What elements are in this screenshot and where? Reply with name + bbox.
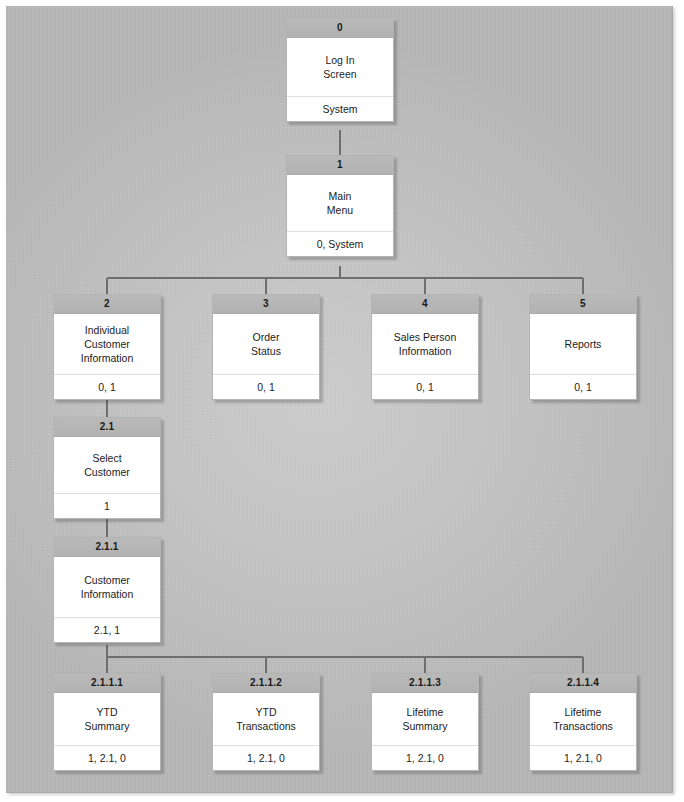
node-refs-5: 0, 1: [530, 374, 636, 399]
node-title-text: Reports: [565, 337, 602, 351]
node-4[interactable]: 4Sales PersonInformation0, 1: [371, 294, 479, 400]
node-refs-2.1: 1: [54, 493, 160, 518]
node-refs-2.1.1.2: 1, 2.1, 0: [213, 745, 319, 770]
structure-chart-page: 0Log InScreenSystem1MainMenu0, System2In…: [0, 0, 684, 802]
node-id-2.1.1: 2.1.1: [54, 538, 160, 557]
node-2.1.1.3[interactable]: 2.1.1.3LifetimeSummary1, 2.1, 0: [371, 673, 479, 771]
node-title-line: Transactions: [553, 719, 613, 733]
node-title-2.1: SelectCustomer: [54, 437, 160, 493]
node-title-2.1.1.4: LifetimeTransactions: [530, 693, 636, 745]
node-title-line: Menu: [327, 203, 353, 217]
node-id-3: 3: [213, 295, 319, 314]
node-id-0: 0: [287, 19, 393, 38]
node-title-2.1.1.2: YTDTransactions: [213, 693, 319, 745]
node-title-text: LifetimeTransactions: [553, 705, 613, 733]
node-title-line: YTD: [236, 705, 296, 719]
node-title-line: Sales Person: [394, 330, 456, 344]
node-2.1.1.1[interactable]: 2.1.1.1YTDSummary1, 2.1, 0: [53, 673, 161, 771]
node-title-text: SelectCustomer: [84, 451, 130, 479]
node-refs-2.1.1: 2.1, 1: [54, 617, 160, 642]
node-id-2.1.1.3: 2.1.1.3: [372, 674, 478, 693]
node-id-2.1.1.1: 2.1.1.1: [54, 674, 160, 693]
node-title-text: IndividualCustomerInformation: [81, 323, 134, 365]
node-refs-2.1.1.1: 1, 2.1, 0: [54, 745, 160, 770]
node-title-2.1.1: CustomerInformation: [54, 557, 160, 617]
node-title-1: MainMenu: [287, 175, 393, 231]
node-title-line: Individual: [81, 323, 134, 337]
node-title-5: Reports: [530, 314, 636, 374]
node-id-1: 1: [287, 156, 393, 175]
node-1[interactable]: 1MainMenu0, System: [286, 155, 394, 257]
node-title-text: YTDTransactions: [236, 705, 296, 733]
node-0[interactable]: 0Log InScreenSystem: [286, 18, 394, 122]
node-refs-2.1.1.3: 1, 2.1, 0: [372, 745, 478, 770]
node-title-2: IndividualCustomerInformation: [54, 314, 160, 374]
node-refs-0: System: [287, 96, 393, 121]
node-id-2.1: 2.1: [54, 418, 160, 437]
node-id-2.1.1.2: 2.1.1.2: [213, 674, 319, 693]
node-title-line: YTD: [85, 705, 130, 719]
node-title-line: Information: [81, 351, 134, 365]
node-title-2.1.1.1: YTDSummary: [54, 693, 160, 745]
node-refs-2: 0, 1: [54, 374, 160, 399]
node-title-text: OrderStatus: [251, 330, 281, 358]
node-refs-3: 0, 1: [213, 374, 319, 399]
node-title-line: Information: [394, 344, 456, 358]
node-title-line: Transactions: [236, 719, 296, 733]
node-title-line: Reports: [565, 337, 602, 351]
node-title-line: Status: [251, 344, 281, 358]
node-title-text: Log InScreen: [323, 53, 356, 81]
node-title-line: Select: [84, 451, 130, 465]
node-title-text: YTDSummary: [85, 705, 130, 733]
node-5[interactable]: 5Reports0, 1: [529, 294, 637, 400]
node-2.1.1.2[interactable]: 2.1.1.2YTDTransactions1, 2.1, 0: [212, 673, 320, 771]
node-title-line: Order: [251, 330, 281, 344]
node-title-text: CustomerInformation: [81, 573, 134, 601]
node-title-line: Lifetime: [553, 705, 613, 719]
node-title-line: Lifetime: [403, 705, 448, 719]
node-id-2.1.1.4: 2.1.1.4: [530, 674, 636, 693]
node-id-4: 4: [372, 295, 478, 314]
node-title-line: Main: [327, 189, 353, 203]
node-title-line: Customer: [81, 337, 134, 351]
node-3[interactable]: 3OrderStatus0, 1: [212, 294, 320, 400]
node-id-2: 2: [54, 295, 160, 314]
node-title-text: Sales PersonInformation: [394, 330, 456, 358]
node-title-line: Summary: [85, 719, 130, 733]
node-refs-1: 0, System: [287, 231, 393, 256]
node-refs-4: 0, 1: [372, 374, 478, 399]
node-title-line: Summary: [403, 719, 448, 733]
node-title-2.1.1.3: LifetimeSummary: [372, 693, 478, 745]
node-title-0: Log InScreen: [287, 38, 393, 96]
node-title-4: Sales PersonInformation: [372, 314, 478, 374]
node-title-text: LifetimeSummary: [403, 705, 448, 733]
node-title-text: MainMenu: [327, 189, 353, 217]
node-2.1.1.4[interactable]: 2.1.1.4LifetimeTransactions1, 2.1, 0: [529, 673, 637, 771]
node-refs-2.1.1.4: 1, 2.1, 0: [530, 745, 636, 770]
node-title-line: Information: [81, 587, 134, 601]
node-2.1.1[interactable]: 2.1.1CustomerInformation2.1, 1: [53, 537, 161, 643]
node-2[interactable]: 2IndividualCustomerInformation0, 1: [53, 294, 161, 400]
node-title-line: Customer: [84, 465, 130, 479]
node-title-line: Customer: [81, 573, 134, 587]
node-id-5: 5: [530, 295, 636, 314]
node-title-line: Screen: [323, 67, 356, 81]
node-title-line: Log In: [323, 53, 356, 67]
node-2.1[interactable]: 2.1SelectCustomer1: [53, 417, 161, 519]
node-title-3: OrderStatus: [213, 314, 319, 374]
